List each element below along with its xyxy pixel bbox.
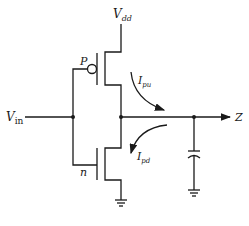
load-capacitor <box>188 117 200 190</box>
pmos-label: P <box>79 55 88 68</box>
ipd-label: Ipd <box>136 150 151 165</box>
ground-icon <box>188 190 200 196</box>
ground-icon <box>115 200 127 206</box>
nmos-transistor <box>97 117 121 200</box>
nmos-label: n <box>80 166 87 179</box>
input-junction <box>71 115 75 119</box>
pmos-transistor <box>73 24 121 165</box>
pullup-current-arrow <box>131 72 164 110</box>
ipu-label: Ipu <box>137 74 152 89</box>
vin-label: Vin <box>6 110 24 126</box>
cmos-inverter-diagram: Vdd P Vin Z n Ipu Ipd <box>0 0 249 226</box>
output-label: Z <box>234 111 243 124</box>
pulldown-current-arrow <box>131 125 167 153</box>
vdd-label: Vdd <box>113 7 132 23</box>
